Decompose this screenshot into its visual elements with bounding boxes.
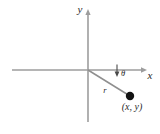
plotted-point <box>126 92 134 100</box>
y-axis <box>85 9 90 122</box>
polar-coordinate-figure: y x r θ (x, y) <box>0 0 160 134</box>
y-axis-arrowhead-icon <box>85 9 90 15</box>
point-coordinates-label: (x, y) <box>122 101 143 113</box>
angle-marker-arrowhead-icon <box>115 72 120 78</box>
polar-diagram-canvas: y x r θ (x, y) <box>0 0 160 134</box>
angle-label: θ <box>121 68 125 78</box>
y-axis-label: y <box>77 3 83 15</box>
x-axis <box>12 67 147 73</box>
x-axis-arrowhead-icon <box>141 67 147 73</box>
x-axis-label: x <box>147 69 153 81</box>
radius-label: r <box>103 85 107 95</box>
